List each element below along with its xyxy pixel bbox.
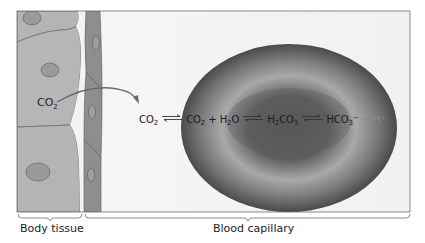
endothelial-nucleus: [88, 168, 95, 182]
body-tissue-label: Body tissue: [20, 222, 84, 235]
co2-rbc: CO2: [186, 114, 205, 125]
body-tissue: [17, 11, 81, 212]
tissue-nucleus: [41, 63, 59, 77]
body-tissue-bracket: [18, 214, 82, 221]
water: + H2O: [205, 114, 239, 125]
co2-tissue-label: CO2: [37, 96, 58, 111]
carbonic-acid: H2CO3: [267, 114, 298, 125]
equilibrium-arrow-icon: [302, 114, 322, 122]
hydrogen-ion: + H+: [359, 114, 387, 125]
equilibrium-arrow-icon: [243, 114, 263, 122]
equilibrium-arrow-icon: [162, 114, 182, 122]
carbonic-acid-equation: CO2 CO2 + H2O H2CO3 HCO3− + H+: [139, 114, 386, 127]
blood-capillary-bracket: [85, 214, 410, 221]
blood-capillary-label: Blood capillary: [213, 222, 294, 235]
endothelial-nucleus: [89, 105, 96, 119]
tissue-nucleus: [26, 163, 50, 181]
co2-subscript: 2: [53, 103, 57, 111]
co2-text: CO: [37, 96, 53, 109]
co2-plasma: CO2: [139, 114, 158, 125]
capillary-wall: [84, 11, 102, 212]
endothelial-nucleus: [93, 36, 100, 50]
bicarbonate: HCO3−: [326, 114, 358, 125]
tissue-nucleus: [23, 11, 41, 25]
